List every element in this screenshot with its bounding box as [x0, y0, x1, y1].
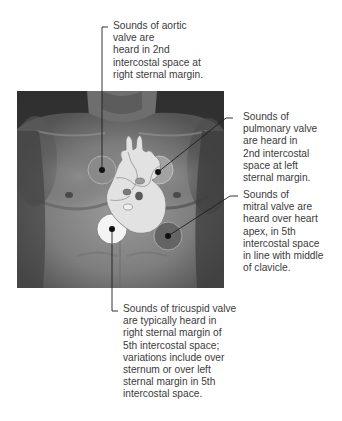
label-line: right sternal margin of — [123, 327, 253, 339]
label-line: Sounds of — [243, 111, 342, 123]
label-line: 5th intercostal space; — [123, 340, 253, 352]
label-line: intercostal space. — [123, 388, 253, 400]
pulmonary-point-dot — [155, 169, 161, 175]
label-line: intercostal space at — [113, 57, 223, 69]
tricuspid-point-dot — [109, 226, 115, 232]
label-line: intercostal space — [243, 238, 342, 250]
label-line: are typically heard in — [123, 315, 253, 327]
label-line: sternum or over left — [123, 364, 253, 376]
mitral-valve-label: Sounds of mitral valve are heard over he… — [243, 189, 342, 274]
mitral-valve-marker — [136, 192, 143, 200]
label-line: heard in 2nd — [113, 44, 223, 56]
label-line: Sounds of aortic — [113, 20, 223, 32]
label-line: of clavicle. — [243, 262, 342, 274]
label-line: apex, in 5th — [243, 226, 342, 238]
label-line: sternal margin. — [243, 172, 342, 184]
mitral-point-dot — [165, 233, 171, 239]
label-line: Sounds of — [243, 189, 342, 201]
label-line: pulmonary valve — [243, 123, 342, 135]
label-line: 2nd intercostal — [243, 148, 342, 160]
label-line: variations include over — [123, 352, 253, 364]
label-line: space at left — [243, 160, 342, 172]
aortic-valve-marker — [123, 189, 131, 195]
pulmonary-valve-label: Sounds of pulmonary valve are heard in 2… — [243, 111, 342, 184]
aortic-valve-label: Sounds of aortic valve are heard in 2nd … — [113, 20, 223, 81]
label-line: Sounds of tricuspid valve — [123, 303, 253, 315]
tricuspid-valve-label: Sounds of tricuspid valve are typically … — [123, 303, 253, 401]
aortic-leader-line — [102, 27, 108, 170]
label-line: in line with middle — [243, 250, 342, 262]
pulmonary-valve-marker — [136, 178, 145, 184]
heart-illustration — [106, 136, 166, 234]
label-line: are heard in — [243, 135, 342, 147]
tricuspid-valve-marker — [124, 204, 133, 210]
aortic-point-dot — [99, 167, 105, 173]
label-line: sternal margin in 5th — [123, 376, 253, 388]
label-line: valve are — [113, 32, 223, 44]
label-line: mitral valve are — [243, 201, 342, 213]
label-line: heard over heart — [243, 213, 342, 225]
label-line: right sternal margin. — [113, 69, 223, 81]
